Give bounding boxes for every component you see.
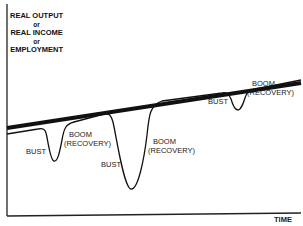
annotation-recovery-1: (RECOVERY) <box>64 140 111 148</box>
annotation-bust-1: BUST <box>26 148 46 156</box>
y-label-line-1: REAL OUTPUT <box>10 12 63 21</box>
annotation-boom-1: BOOM <box>69 131 97 139</box>
annotation-bust-3: BUST <box>208 98 228 106</box>
y-label-line-3: REAL INCOME <box>10 29 63 38</box>
annotation-boom-2: BOOM <box>153 138 176 146</box>
annotation-recovery-3: (RECOVERY) <box>247 89 294 97</box>
y-axis-label: REAL OUTPUT or REAL INCOME or EMPLOYMENT <box>10 12 63 55</box>
x-axis <box>7 213 301 216</box>
annotation-boom-3: BOOM <box>252 80 275 88</box>
annotation-recovery-2: (RECOVERY) <box>148 147 195 155</box>
y-label-line-5: EMPLOYMENT <box>10 46 63 55</box>
annotation-bust-2: BUST <box>101 161 121 169</box>
x-axis-label: TIME <box>274 216 292 224</box>
